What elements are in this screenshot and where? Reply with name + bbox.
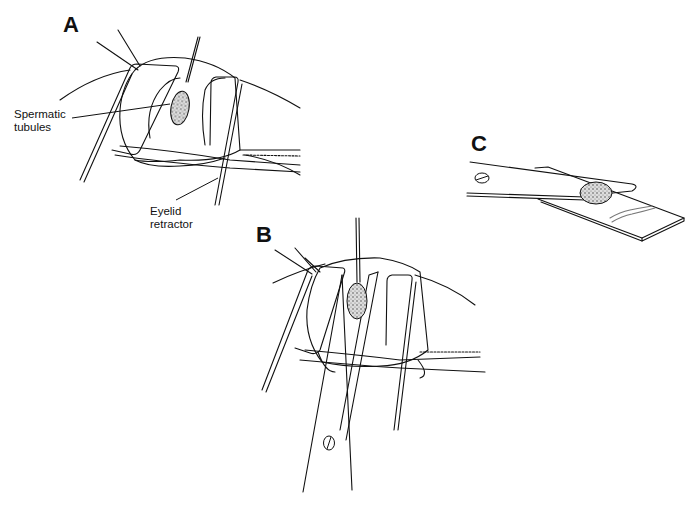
callout-spermatic-tubules-line1: Spermatic: [14, 108, 66, 121]
surgical-illustration: [0, 0, 700, 505]
callout-eyelid-retractor-line2: retractor: [150, 218, 193, 231]
leader-eyelid-retractor: [176, 178, 218, 200]
tissue-sample-c: [580, 182, 612, 204]
tissue-sample-a: [168, 90, 192, 127]
panel-c-drawing: [467, 162, 684, 241]
leader-spermatic-tubules: [72, 104, 170, 118]
tissue-sample-b: [347, 283, 367, 319]
callout-eyelid-retractor: Eyelid retractor: [150, 205, 193, 231]
callout-spermatic-tubules-line2: tubules: [14, 121, 66, 134]
panel-label-a: A: [63, 14, 79, 36]
callout-spermatic-tubules: Spermatic tubules: [14, 108, 66, 134]
callout-eyelid-retractor-line1: Eyelid: [150, 205, 193, 218]
scissors-screw-icon: [324, 436, 335, 450]
panel-b-drawing: [262, 218, 485, 492]
panel-label-c: C: [471, 133, 487, 155]
forceps-screw-icon: [475, 173, 489, 183]
panel-label-b: B: [256, 224, 272, 246]
